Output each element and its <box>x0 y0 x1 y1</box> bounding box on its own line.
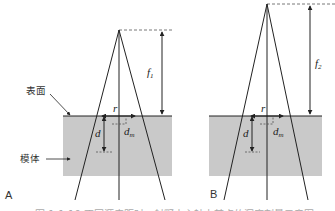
depth-label-a: d <box>95 128 101 139</box>
panel-label-b: B <box>210 189 217 200</box>
phantom-label: 模体 <box>20 154 40 164</box>
surface-label: 表面 <box>26 86 46 96</box>
panel-b <box>209 4 335 200</box>
panel-a <box>46 30 172 200</box>
dm-label-b: dm <box>273 126 284 139</box>
depth-label-b: d <box>243 128 249 139</box>
figure-caption: 图 1-1-10 不同源皮距时，射野中心轴上某点的深度剂量示意图 <box>35 206 314 211</box>
radius-label-b: r <box>261 103 265 114</box>
focal-label-a: f1 <box>147 67 154 80</box>
surface-pointer-a <box>50 94 70 115</box>
dm-label-a: dm <box>124 126 135 139</box>
focal-label-b: f2 <box>315 58 322 71</box>
radius-label-a: r <box>113 103 117 114</box>
phantom-b <box>209 116 322 176</box>
beam-geometry-diagram <box>0 0 335 211</box>
panel-label-a: A <box>5 190 12 201</box>
